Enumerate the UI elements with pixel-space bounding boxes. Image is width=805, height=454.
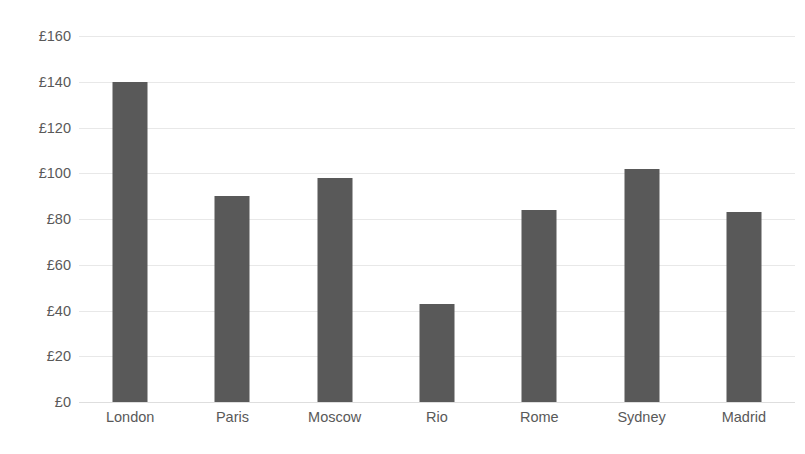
bar-chart: £0£20£40£60£80£100£120£140£160 LondonPar… [0, 0, 805, 454]
y-axis-tick-label: £20 [0, 348, 71, 364]
bar-slot [693, 36, 795, 402]
bar-slot [79, 36, 181, 402]
bar-slot [181, 36, 283, 402]
y-axis-tick-label: £0 [0, 394, 71, 410]
y-axis-tick-label: £160 [0, 28, 71, 44]
bar-slot [488, 36, 590, 402]
bar[interactable] [726, 212, 761, 402]
y-axis-tick-label: £100 [0, 165, 71, 181]
x-axis-tick-label: Rio [426, 409, 448, 425]
y-axis-tick-label: £60 [0, 257, 71, 273]
x-axis-tick-label: Paris [216, 409, 249, 425]
y-axis-tick-label: £120 [0, 120, 71, 136]
bar[interactable] [522, 210, 557, 402]
x-axis-tick-label: Madrid [722, 409, 766, 425]
bar-slot [284, 36, 386, 402]
y-axis-tick-label: £80 [0, 211, 71, 227]
bar-slot [590, 36, 692, 402]
x-axis-tick-label: Moscow [308, 409, 361, 425]
y-axis-tick-label: £140 [0, 74, 71, 90]
bar-slot [386, 36, 488, 402]
bar[interactable] [419, 304, 454, 402]
x-axis-tick-label: Rome [520, 409, 559, 425]
bar[interactable] [215, 196, 250, 402]
bar[interactable] [317, 178, 352, 402]
x-axis-tick-label: Sydney [617, 409, 665, 425]
plot-area [79, 36, 795, 402]
bar[interactable] [624, 169, 659, 402]
y-axis-tick-label: £40 [0, 303, 71, 319]
gridline [79, 402, 795, 403]
bar[interactable] [113, 82, 148, 402]
x-axis-tick-label: London [106, 409, 154, 425]
